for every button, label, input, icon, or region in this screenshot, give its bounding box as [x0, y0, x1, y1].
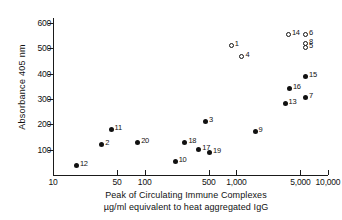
data-point-label: 16	[293, 83, 301, 91]
x-axis-title-line-1: Peak of Circulating Immune Complexes	[36, 190, 336, 202]
filled-circle-marker	[109, 127, 114, 132]
y-tick-label: 500	[11, 44, 51, 53]
y-axis-line	[53, 18, 54, 176]
data-point-label: 10	[179, 156, 187, 164]
open-circle-marker	[286, 32, 291, 37]
filled-circle-marker	[253, 129, 258, 134]
filled-circle-marker	[283, 101, 288, 106]
scatter-plot: Absorbance 405 nm 100200300400500600 105…	[0, 0, 342, 220]
x-axis-title-line-2: µg/ml equivalent to heat aggregated IgG	[36, 202, 336, 214]
data-point-label: 9	[259, 126, 263, 134]
data-point-label: 20	[141, 137, 149, 145]
data-point-label: 4	[245, 51, 249, 59]
x-tick-mark	[236, 170, 237, 175]
y-tick-label: 300	[11, 95, 51, 104]
data-point-label: 2	[105, 139, 109, 147]
y-tick-label: 100	[11, 146, 51, 155]
y-tick-label: 400	[11, 70, 51, 79]
x-tick-label: 1,000	[216, 178, 256, 187]
filled-circle-marker	[207, 150, 212, 155]
filled-circle-marker	[196, 147, 201, 152]
data-point-label: 12	[80, 160, 88, 168]
y-tick-label: 600	[11, 19, 51, 28]
x-axis-title: Peak of Circulating Immune Complexes µg/…	[36, 190, 336, 213]
open-circle-marker	[239, 54, 244, 59]
x-tick-mark	[328, 170, 329, 175]
x-axis-line	[53, 175, 328, 176]
filled-circle-marker	[74, 163, 79, 168]
data-point-label: 7	[309, 92, 313, 100]
x-tick-label: 10	[33, 178, 73, 187]
filled-circle-marker	[135, 140, 140, 145]
x-tick-mark	[145, 170, 146, 175]
x-tick-mark	[300, 170, 301, 175]
data-point-label: 1	[235, 40, 239, 48]
data-point-label: 3	[209, 116, 213, 124]
data-point-label: 14	[292, 29, 300, 37]
x-tick-label: 100	[125, 178, 165, 187]
open-circle-marker	[229, 43, 234, 48]
filled-circle-marker	[203, 119, 208, 124]
x-tick-mark	[117, 170, 118, 175]
x-tick-mark	[53, 170, 54, 175]
filled-circle-marker	[182, 140, 187, 145]
data-point-label: 13	[289, 98, 297, 106]
x-tick-label: 10,000	[308, 178, 342, 187]
data-point-label: 15	[309, 71, 317, 79]
open-circle-marker	[303, 45, 308, 50]
x-tick-mark	[209, 170, 210, 175]
data-point-label: 11	[115, 124, 122, 132]
y-tick-label: 200	[11, 120, 51, 129]
open-circle-marker	[303, 32, 308, 37]
filled-circle-marker	[287, 86, 292, 91]
filled-circle-marker	[173, 159, 178, 164]
data-point-label: 18	[188, 137, 196, 145]
data-point-label: 6	[309, 29, 313, 37]
data-point-label: 19	[213, 147, 221, 155]
filled-circle-marker	[99, 142, 104, 147]
filled-circle-marker	[303, 95, 308, 100]
filled-circle-marker	[303, 74, 308, 79]
data-point-label: 5	[309, 42, 313, 50]
